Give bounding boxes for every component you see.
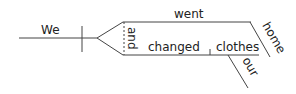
- word-conjunction-and: and: [125, 27, 139, 50]
- word-verb-changed: changed: [148, 40, 200, 54]
- word-object-clothes: clothes: [216, 40, 259, 54]
- word-verb-went: went: [174, 7, 204, 21]
- diagram-canvas: We went changed clothes and home our: [0, 0, 296, 94]
- word-subject: We: [41, 23, 60, 37]
- fork-lower: [97, 38, 123, 55]
- fork-upper: [97, 22, 123, 38]
- word-modifier-home: home: [259, 20, 288, 56]
- sentence-diagram: We went changed clothes and home our: [0, 0, 296, 94]
- word-modifier-our: our: [239, 55, 261, 79]
